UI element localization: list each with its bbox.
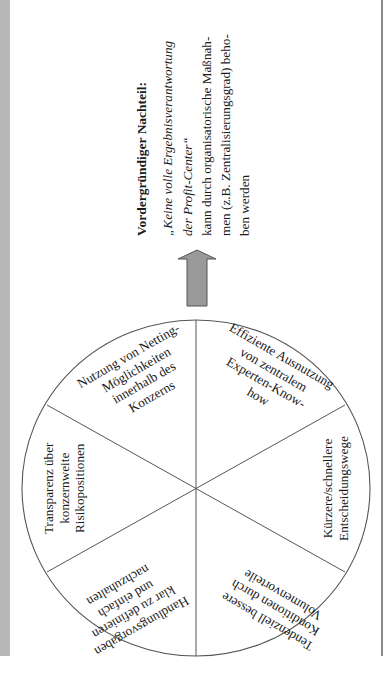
segment-decision-paths: Kürzere/schnellere Entscheidungswege [320,419,351,559]
segment-line: Risikopositionen [72,418,88,558]
segment-line: konzernweite [56,418,72,558]
note-body-line: men (z.B. Zentralisierungsgrad) beho- [216,6,235,236]
segment-line: Entscheidungswege [335,419,351,559]
disadvantage-note: Vordergründiger Nachteil: „Keine volle E… [132,6,255,236]
note-title: Vordergründiger Nachteil: [132,6,151,236]
segment-line: Kürzere/schnellere [320,419,336,559]
note-body-line: kann durch organisatorische Maßnah- [197,6,216,236]
note-quote-line: der Profit-Center“ [178,6,197,236]
up-arrow-icon [178,250,216,306]
segment-transparency: Transparenz über konzernweite Risikoposi… [41,418,88,558]
note-quote-line: „Keine volle Ergebnisverantwortung [158,6,177,236]
note-body-line: ben werden [235,6,254,236]
segment-line: Transparenz über [41,418,57,558]
